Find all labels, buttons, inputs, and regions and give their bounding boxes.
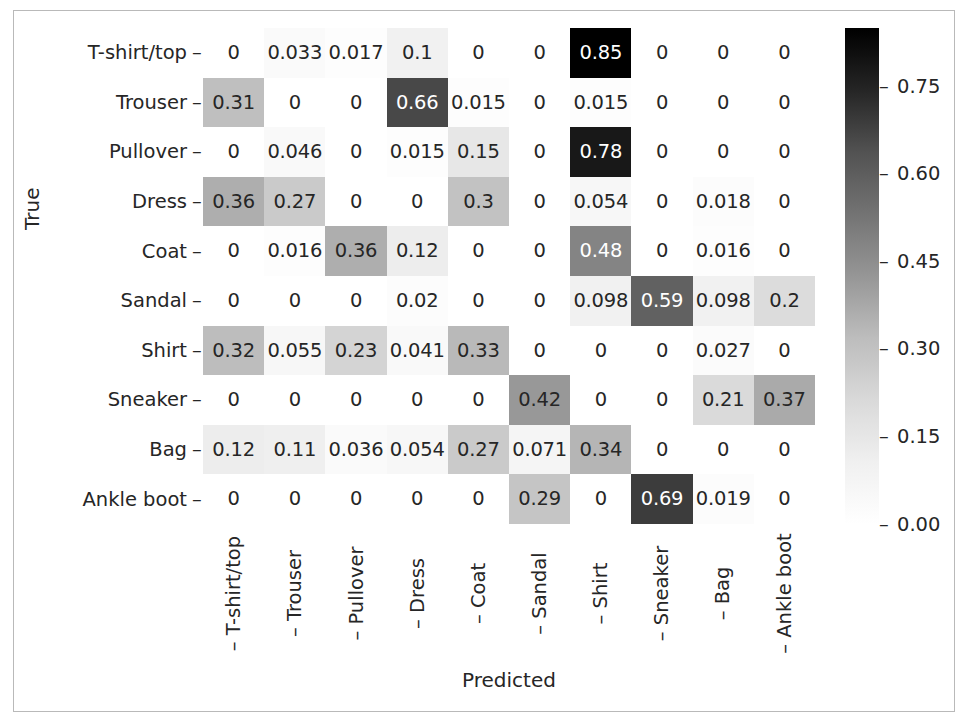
heatmap-cell: 0: [754, 177, 815, 227]
colorbar-tick-label: 0.15: [897, 425, 940, 448]
heatmap-cell: 0.21: [693, 375, 754, 425]
y-tick-label: Trouser: [116, 91, 187, 114]
heatmap-cell: 0.12: [387, 226, 448, 276]
y-axis-tick-labels: T-shirt/top–Trouser–Pullover–Dress–Coat–…: [0, 28, 203, 524]
heatmap-cell: 0.015: [387, 127, 448, 177]
x-tick-pullover: Pullover–: [325, 524, 386, 664]
tick-dash-icon: –: [589, 613, 612, 624]
y-tick-label: Coat: [142, 240, 187, 263]
tick-dash-icon: –: [528, 624, 551, 635]
heatmap-cell: 0: [203, 276, 264, 326]
heatmap-cell: 0: [203, 127, 264, 177]
tick-dash-icon: –: [406, 618, 429, 629]
colorbar-tick-label: 0.30: [897, 337, 940, 360]
x-tick-sandal: Sandal–: [509, 524, 570, 664]
heatmap-cell: 0: [509, 127, 570, 177]
y-tick-bag: Bag–: [149, 425, 203, 475]
heatmap-cell: 0.36: [325, 226, 386, 276]
tick-dash-icon: –: [222, 640, 245, 651]
heatmap-cell: 0: [448, 28, 509, 78]
tick-dash-icon: –: [879, 162, 891, 185]
heatmap-cell: 0: [203, 375, 264, 425]
heatmap-cell: 0: [570, 375, 631, 425]
tick-dash-icon: –: [879, 75, 891, 98]
heatmap-cell: 0: [509, 276, 570, 326]
heatmap-cell: 0.055: [264, 326, 325, 376]
heatmap-cell: 0.59: [631, 276, 692, 326]
heatmap-cell: 0: [631, 226, 692, 276]
y-tick-sandal: Sandal–: [121, 276, 203, 326]
heatmap-cell: 0.69: [631, 474, 692, 524]
tick-dash-icon: –: [192, 388, 203, 411]
heatmap-cell: 0.016: [693, 226, 754, 276]
heatmap-cell: 0.32: [203, 326, 264, 376]
tick-dash-icon: –: [879, 337, 891, 360]
tick-dash-icon: –: [712, 609, 735, 620]
heatmap-cell: 0: [448, 276, 509, 326]
tick-dash-icon: –: [192, 91, 203, 114]
y-tick-label: T-shirt/top: [88, 41, 187, 64]
heatmap-cell: 0.12: [203, 425, 264, 475]
heatmap-cell: 0: [754, 78, 815, 128]
heatmap-cell: 0: [387, 474, 448, 524]
heatmap-cell: 0: [631, 127, 692, 177]
heatmap-cell: 0: [693, 78, 754, 128]
y-axis-title: True: [20, 188, 44, 230]
x-tick-dress: Dress–: [387, 524, 448, 664]
heatmap-cell: 0: [693, 127, 754, 177]
tick-dash-icon: –: [192, 488, 203, 511]
tick-dash-icon: –: [192, 240, 203, 263]
heatmap-cell: 0: [509, 226, 570, 276]
heatmap-cell: 0.054: [387, 425, 448, 475]
confusion-matrix-heatmap: 00.0330.0170.1000.850000.31000.660.01500…: [203, 28, 815, 524]
heatmap-cell: 0: [509, 28, 570, 78]
heatmap-cell: 0: [693, 28, 754, 78]
heatmap-cell: 0: [754, 226, 815, 276]
heatmap-cell: 0: [631, 177, 692, 227]
heatmap-cell: 0.027: [693, 326, 754, 376]
y-tick-label: Sandal: [121, 289, 187, 312]
heatmap-cell: 0.098: [570, 276, 631, 326]
heatmap-cell: 0.098: [693, 276, 754, 326]
heatmap-cell: 0: [754, 474, 815, 524]
x-tick-t-shirt-top: T-shirt/top–: [203, 524, 264, 664]
x-tick-trouser: Trouser–: [264, 524, 325, 664]
heatmap-cell: 0: [570, 326, 631, 376]
colorbar-tick-label: 0.75: [897, 75, 940, 98]
heatmap-cell: 0: [264, 276, 325, 326]
heatmap-cell: 0: [509, 326, 570, 376]
heatmap-cell: 0: [387, 177, 448, 227]
tick-dash-icon: –: [192, 339, 203, 362]
heatmap-cell: 0.016: [264, 226, 325, 276]
heatmap-cell: 0.02: [387, 276, 448, 326]
x-tick-coat: Coat–: [448, 524, 509, 664]
x-axis-title: Predicted: [203, 668, 815, 692]
heatmap-cell: 0: [203, 226, 264, 276]
heatmap-cell: 0.85: [570, 28, 631, 78]
y-tick-label: Sneaker: [108, 388, 187, 411]
heatmap-cell: 0.31: [203, 78, 264, 128]
heatmap-cell: 0: [570, 474, 631, 524]
x-tick-label: Bag–: [712, 567, 735, 621]
heatmap-cell: 0: [325, 375, 386, 425]
tick-dash-icon: –: [192, 41, 203, 64]
y-tick-label: Dress: [132, 190, 187, 213]
x-tick-label: Sneaker–: [650, 546, 673, 641]
heatmap-cell: 0.36: [203, 177, 264, 227]
heatmap-cell: 0: [264, 474, 325, 524]
heatmap-cell: 0.015: [448, 78, 509, 128]
heatmap-cell: 0: [325, 474, 386, 524]
heatmap-cell: 0: [509, 78, 570, 128]
x-tick-bag: Bag–: [693, 524, 754, 664]
x-tick-shirt: Shirt–: [570, 524, 631, 664]
y-tick-label: Bag: [149, 438, 187, 461]
colorbar-tick-labels: –0.00–0.15–0.30–0.45–0.60–0.75: [845, 28, 955, 524]
x-axis-tick-labels: T-shirt/top–Trouser–Pullover–Dress–Coat–…: [203, 524, 815, 664]
y-tick-coat: Coat–: [142, 226, 203, 276]
colorbar-tick: –0.45: [879, 251, 940, 271]
colorbar-tick: –0.00: [879, 514, 940, 534]
x-tick-sneaker: Sneaker–: [631, 524, 692, 664]
tick-dash-icon: –: [192, 289, 203, 312]
tick-dash-icon: –: [879, 425, 891, 448]
colorbar-tick-label: 0.45: [897, 250, 940, 273]
